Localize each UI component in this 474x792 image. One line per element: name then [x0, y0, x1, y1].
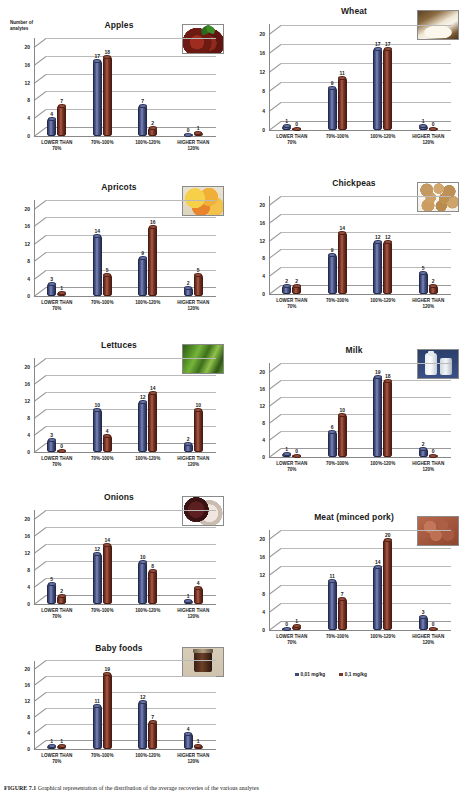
bar-babyfoods-2-1: 7: [148, 721, 157, 749]
bar-milk-2-1: 18: [383, 380, 392, 457]
bar-group: 22: [281, 196, 303, 294]
bar-value-label: 0: [432, 448, 435, 454]
legend-label: 0,01 mg/kg: [301, 672, 326, 677]
legend-swatch: [339, 673, 343, 677]
gridline-depth: [269, 548, 282, 558]
gridline-depth: [34, 561, 47, 571]
bar-top-cap: [139, 560, 147, 564]
gridline-depth: [34, 252, 47, 262]
bar-meat-0-1: 1: [292, 625, 301, 630]
bar-wheat-2-1: 17: [383, 48, 392, 130]
y-tick-label: 12: [12, 241, 30, 247]
bar-value-label: 10: [339, 407, 345, 413]
plot-area-milk: 04812162010610191820LOWER THAN 70%70%-10…: [269, 363, 451, 457]
gridline-depth: [269, 44, 282, 54]
bar-group: 127: [137, 661, 159, 749]
category-label: 70%-100%: [78, 456, 126, 462]
bar-group: 41: [182, 661, 204, 749]
gridline-depth: [34, 91, 47, 101]
bar-apples-2-0: 7: [138, 105, 147, 136]
bar-top-cap: [184, 286, 192, 290]
bar-value-label: 18: [104, 49, 110, 55]
y-tick-label: 16: [12, 533, 30, 539]
chart-panel-meat: Meat (minced pork)04812162001117142030LO…: [243, 512, 465, 664]
bar-top-cap: [283, 452, 291, 456]
category-label: 70%-100%: [313, 461, 361, 467]
category-label: LOWER THAN 70%: [33, 608, 81, 620]
bar-top-cap: [338, 76, 346, 80]
bar-chickpeas-1-0: 9: [328, 254, 337, 294]
category-label: HIGHER THAN 120%: [169, 753, 217, 765]
bar-top-cap: [184, 732, 192, 736]
bar-value-label: 16: [150, 219, 156, 225]
category-label: 70%-100%: [313, 298, 361, 304]
bar-value-label: 9: [141, 250, 144, 256]
bar-milk-1-0: 6: [328, 431, 337, 457]
bar-top-cap: [374, 375, 382, 379]
bar-value-label: 1: [422, 118, 425, 124]
bar-top-cap: [184, 599, 192, 603]
bar-value-label: 2: [60, 588, 63, 594]
bar-babyfoods-2-0: 12: [138, 701, 147, 749]
x-axis-line: [269, 630, 451, 631]
y-tick-label: 4: [247, 437, 265, 443]
y-axis-line: [34, 358, 35, 452]
bar-chickpeas-0-1: 2: [292, 285, 301, 294]
bar-value-label: 12: [140, 694, 146, 700]
bar-group: 210: [182, 358, 204, 452]
bar-group: 10: [281, 24, 303, 130]
bar-babyfoods-0-0: 1: [47, 745, 56, 749]
chart-panel-lettuces: Lettuces048121620301041214210LOWER THAN …: [8, 340, 230, 486]
y-tick-label: 8: [247, 591, 265, 597]
gridline-depth: [269, 414, 282, 424]
y-tick-label: 20: [247, 202, 265, 208]
y-tick-label: 20: [12, 364, 30, 370]
bar-lettuces-1-1: 4: [103, 435, 112, 452]
bar-top-cap: [194, 586, 202, 590]
bar-babyfoods-1-1: 19: [103, 673, 112, 749]
bar-value-label: 0: [432, 621, 435, 627]
bar-top-cap: [293, 127, 301, 131]
bar-value-label: 0: [295, 121, 298, 127]
y-tick-label: 12: [12, 698, 30, 704]
bar-value-label: 0: [285, 621, 288, 627]
y-tick-label: 0: [247, 627, 265, 633]
y-tick-label: 0: [12, 449, 30, 455]
bar-top-cap: [419, 124, 427, 128]
bar-value-label: 12: [375, 234, 381, 240]
category-label: HIGHER THAN 120%: [404, 134, 452, 146]
bar-top-cap: [328, 430, 336, 434]
bar-onions-1-1: 14: [103, 544, 112, 604]
bar-top-cap: [149, 225, 157, 229]
y-tick-label: 16: [247, 554, 265, 560]
bar-chickpeas-1-1: 14: [338, 232, 347, 294]
y-tick-label: 4: [12, 584, 30, 590]
y-tick-label: 12: [247, 572, 265, 578]
plot-area-lettuces: 048121620301041214210LOWER THAN 70%70%-1…: [34, 358, 216, 452]
y-tick-label: 16: [247, 220, 265, 226]
bar-meat-1-1: 7: [338, 598, 347, 630]
bar-top-cap: [384, 240, 392, 244]
bar-value-label: 19: [104, 666, 110, 672]
chart-panel-apricots: Apricots0481216203114591625LOWER THAN 70…: [8, 182, 230, 330]
bar-value-label: 11: [95, 698, 100, 704]
bar-top-cap: [194, 408, 202, 412]
y-tick-label: 16: [12, 682, 30, 688]
gridline-depth: [269, 397, 282, 407]
category-label: 100%-120%: [359, 634, 407, 640]
gridline-depth: [269, 567, 282, 577]
y-tick-label: 16: [12, 62, 30, 68]
gridline-depth: [269, 63, 282, 73]
bar-value-label: 4: [106, 428, 109, 434]
figure-caption: FIGURE 7.1 Graphical representation of t…: [4, 785, 470, 791]
gridline-depth: [34, 527, 47, 537]
bar-milk-0-0: 1: [282, 453, 291, 457]
y-tick-label: 20: [247, 31, 265, 37]
bar-wheat-3-0: 1: [419, 125, 428, 130]
bar-lettuces-0-0: 3: [47, 439, 56, 452]
bar-meat-2-1: 20: [383, 539, 392, 630]
bar-value-label: 2: [151, 120, 154, 126]
category-label: HIGHER THAN 120%: [404, 634, 452, 646]
bar-top-cap: [58, 744, 66, 748]
gridline-depth: [34, 676, 47, 686]
